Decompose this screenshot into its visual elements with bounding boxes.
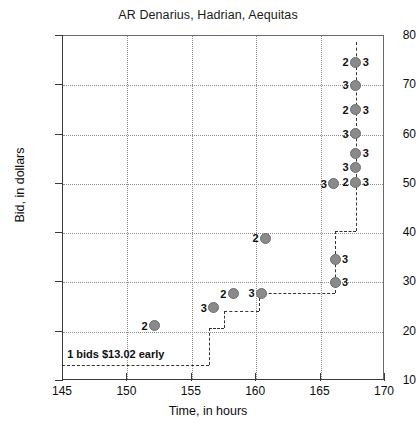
- x-axis-label: Time, in hours: [0, 404, 416, 418]
- y-tick-mark: [55, 134, 63, 135]
- early-bid-annotation: 1 bids $13.02 early: [67, 348, 164, 360]
- data-point-label-left: 3: [338, 79, 349, 91]
- chart-title: AR Denarius, Hadrian, Aequitas: [0, 8, 416, 22]
- data-point[interactable]: [228, 288, 239, 299]
- y-tick-label: 60: [370, 127, 416, 141]
- data-point-label-right: 3: [363, 147, 369, 159]
- y-tick-label: 70: [370, 77, 416, 91]
- x-tick-label: 165: [290, 384, 350, 398]
- data-point[interactable]: [260, 233, 271, 244]
- data-point-label-left: 3: [316, 178, 327, 190]
- step-line-segment: [259, 293, 335, 294]
- gridline-vertical: [321, 36, 322, 379]
- x-tick-mark: [126, 373, 127, 381]
- data-point[interactable]: [350, 162, 361, 173]
- y-tick-mark: [55, 281, 63, 282]
- data-point[interactable]: [350, 57, 361, 68]
- x-tick-label: 145: [32, 384, 92, 398]
- gridline-horizontal: [63, 332, 383, 333]
- x-tick-label: 160: [225, 384, 285, 398]
- data-point-label-left: 2: [338, 56, 349, 68]
- step-line-segment: [224, 311, 259, 312]
- y-tick-label: 50: [370, 176, 416, 190]
- step-line-segment: [209, 328, 224, 329]
- data-point[interactable]: [256, 288, 267, 299]
- y-tick-mark: [55, 183, 63, 184]
- step-line-segment: [356, 182, 357, 230]
- y-tick-label: 30: [370, 274, 416, 288]
- data-point-label-right: 3: [342, 253, 348, 265]
- data-point[interactable]: [350, 148, 361, 159]
- x-tick-mark: [255, 373, 256, 381]
- step-line-segment: [62, 365, 209, 366]
- data-point-label-right: 3: [363, 56, 369, 68]
- data-point-label-left: 2: [338, 176, 349, 188]
- x-tick-mark: [191, 373, 192, 381]
- x-tick-mark: [62, 373, 63, 381]
- data-point[interactable]: [350, 177, 361, 188]
- data-point-label-right: 3: [363, 104, 369, 116]
- x-tick-label: 170: [354, 384, 414, 398]
- data-point[interactable]: [330, 254, 341, 265]
- y-tick-label: 40: [370, 225, 416, 239]
- x-tick-label: 155: [161, 384, 221, 398]
- data-point-label-left: 3: [338, 128, 349, 140]
- x-tick-label: 150: [96, 384, 156, 398]
- x-tick-mark: [320, 373, 321, 381]
- chart-container: AR Denarius, Hadrian, Aequitas Bid, in d…: [0, 0, 416, 440]
- y-tick-label: 80: [370, 28, 416, 42]
- data-point-label-left: 2: [215, 288, 226, 300]
- gridline-vertical: [256, 36, 257, 379]
- step-line-segment: [335, 231, 356, 232]
- y-tick-mark: [55, 84, 63, 85]
- gridline-vertical: [127, 36, 128, 379]
- gridline-horizontal: [63, 85, 383, 86]
- step-line-segment: [209, 328, 210, 365]
- data-point[interactable]: [350, 80, 361, 91]
- data-point-label-right: 3: [342, 276, 348, 288]
- gridline-vertical: [192, 36, 193, 379]
- y-tick-mark: [55, 35, 63, 36]
- data-point-label-right: 3: [363, 176, 369, 188]
- data-point-label-left: 2: [248, 232, 259, 244]
- gridline-horizontal: [63, 135, 383, 136]
- y-tick-mark: [55, 232, 63, 233]
- data-point-label-left: 3: [244, 287, 255, 299]
- data-point-label-left: 3: [196, 302, 207, 314]
- data-point-label-left: 2: [137, 320, 148, 332]
- y-tick-label: 20: [370, 324, 416, 338]
- data-point-label-left: 3: [338, 161, 349, 173]
- y-tick-mark: [55, 331, 63, 332]
- data-point[interactable]: [330, 277, 341, 288]
- data-point-label-left: 2: [338, 104, 349, 116]
- step-line-segment: [224, 311, 225, 329]
- x-tick-mark: [384, 373, 385, 381]
- y-axis-label: Bid, in dollars: [13, 95, 27, 275]
